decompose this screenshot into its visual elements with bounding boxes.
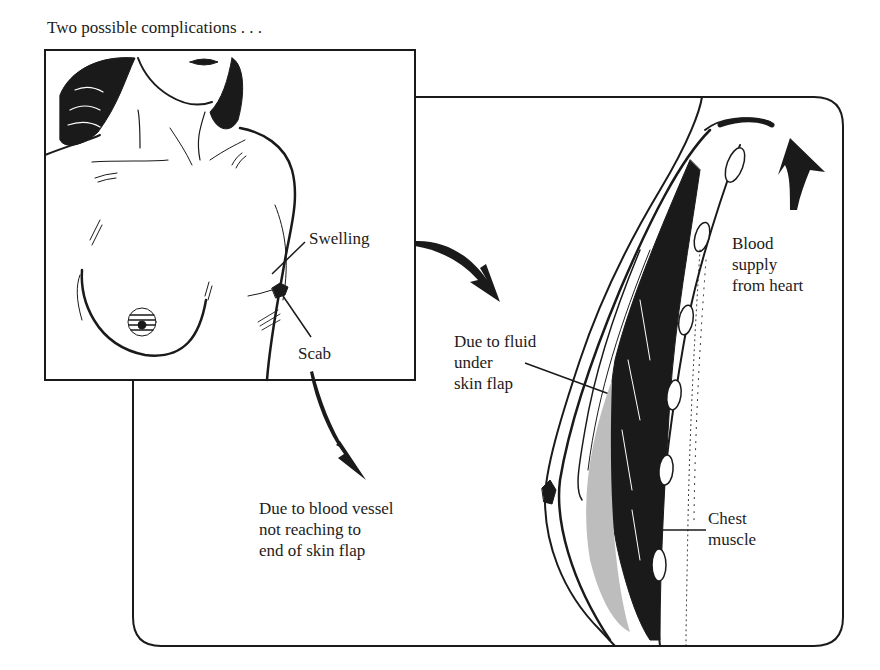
label-scab: Scab [298, 343, 331, 364]
label-fluid: Due to fluid under skin flap [454, 331, 536, 394]
illustration-canvas [0, 0, 880, 670]
figure-caption: Two possible complications . . . [47, 18, 262, 38]
arrow-to-vessel [310, 371, 366, 480]
arrow-to-fluid [415, 241, 500, 302]
label-vessel: Due to blood vessel not reaching to end … [259, 498, 394, 561]
label-swelling: Swelling [309, 228, 369, 249]
cross-section-drawing [542, 97, 772, 646]
label-blood-supply: Blood supply from heart [732, 233, 803, 296]
label-chest-muscle: Chest muscle [708, 508, 756, 550]
scab-spot [542, 480, 556, 504]
arrow-blood-supply [778, 138, 825, 210]
